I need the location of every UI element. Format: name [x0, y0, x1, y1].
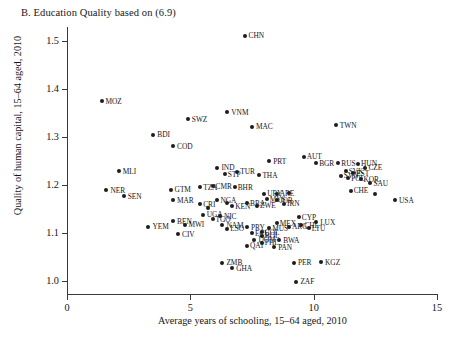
scatter-point	[211, 184, 215, 188]
scatter-point-label: TWN	[340, 122, 357, 129]
x-axis-tick-label: 0	[47, 302, 87, 313]
scatter-point-label: SAU	[373, 180, 388, 187]
scatter-point-label: PRT	[273, 158, 286, 165]
page-title: B. Education Quality based on (6.9)	[21, 7, 176, 18]
scatter-point-label: GTM	[175, 186, 191, 193]
x-axis-tick-label: 5	[170, 302, 210, 313]
scatter-point	[235, 170, 239, 174]
scatter-point	[302, 155, 306, 159]
scatter-point	[243, 34, 247, 38]
x-axis-tick-label: 10	[294, 302, 334, 313]
scatter-point	[287, 225, 291, 229]
scatter-point-label: BHR	[238, 184, 253, 191]
scatter-point	[260, 241, 264, 245]
x-axis-tick	[314, 295, 315, 300]
scatter-point	[339, 174, 343, 178]
scatter-point-label: TUR	[240, 168, 255, 175]
scatter-point-label: ZAF	[300, 278, 314, 285]
scatter-point-label: MLI	[123, 168, 136, 175]
scatter-point-label: NER	[110, 187, 125, 194]
scatter-point	[201, 213, 205, 217]
y-axis-tick-label: 1.4	[31, 83, 59, 94]
scatter-point-label: PER	[298, 259, 311, 266]
scatter-point-label: CMR	[216, 183, 232, 190]
y-axis-tick	[62, 185, 67, 186]
figure-panel: B. Education Quality based on (6.9) Qual…	[0, 0, 458, 344]
scatter-point-label: ARG	[292, 223, 307, 230]
scatter-point-label: IRN	[287, 200, 300, 207]
scatter-point-label: GHA	[236, 265, 252, 272]
x-axis-title: Average years of schooling, 15–64 aged, …	[67, 315, 438, 326]
y-axis-tick-label: 1.3	[31, 131, 59, 142]
y-axis-title: Quality of human capital, 15–64 aged, 20…	[12, 0, 23, 260]
scatter-point-label: USA	[399, 197, 414, 204]
y-axis-tick	[62, 281, 67, 282]
x-axis-tick	[67, 295, 68, 300]
scatter-point-label: BDI	[157, 131, 170, 138]
x-axis-tick	[190, 295, 191, 300]
scatter-point	[117, 169, 121, 173]
scatter-point	[245, 244, 249, 248]
scatter-point-label: CHE	[354, 187, 369, 194]
scatter-point	[169, 188, 173, 192]
scatter-point	[211, 217, 215, 221]
scatter-point-label: VNM	[231, 109, 248, 116]
scatter-point-label: COD	[177, 143, 192, 150]
scatter-point-label: SEN	[128, 193, 142, 200]
scatter-point-label: MAR	[177, 197, 194, 204]
scatter-point-label: MYS	[270, 196, 286, 203]
y-axis-tick	[62, 137, 67, 138]
scatter-point-label: MWI	[188, 221, 204, 228]
scatter-point-label: CZE	[368, 164, 382, 171]
scatter-point	[262, 192, 266, 196]
scatter-point-label: CHN	[249, 32, 264, 39]
scatter-point-label: KGZ	[325, 259, 340, 266]
scatter-point	[359, 177, 363, 181]
scatter-point-label: CIV	[182, 231, 195, 238]
y-axis-tick-label: 1.1	[31, 227, 59, 238]
scatter-point	[255, 204, 259, 208]
scatter-point	[100, 99, 104, 103]
scatter-point-label: YEM	[152, 223, 168, 230]
scatter-point	[250, 125, 254, 129]
scatter-point	[356, 162, 360, 166]
scatter-point-label: THA	[262, 172, 277, 179]
x-axis-tick-label: 15	[417, 302, 457, 313]
scatter-point	[349, 189, 353, 193]
y-axis-tick	[62, 233, 67, 234]
scatter-point-label: LSO	[230, 225, 244, 232]
x-axis-tick	[437, 295, 438, 300]
scatter-point	[292, 261, 296, 265]
y-axis-tick	[62, 89, 67, 90]
scatter-point-label: MAC	[256, 123, 273, 130]
y-axis-tick-label: 1.0	[31, 275, 59, 286]
y-axis-tick	[62, 41, 67, 42]
scatter-point-label: LTU	[312, 225, 326, 232]
scatter-plot-area	[67, 27, 437, 295]
scatter-point-label: SWZ	[192, 116, 207, 123]
y-axis-tick-label: 1.2	[31, 179, 59, 190]
scatter-point-label: BWA	[283, 237, 299, 244]
scatter-point-label: BGR	[319, 160, 334, 167]
scatter-point-label: MOZ	[106, 98, 122, 105]
y-axis-tick-label: 1.5	[31, 35, 59, 46]
scatter-point	[334, 123, 338, 127]
